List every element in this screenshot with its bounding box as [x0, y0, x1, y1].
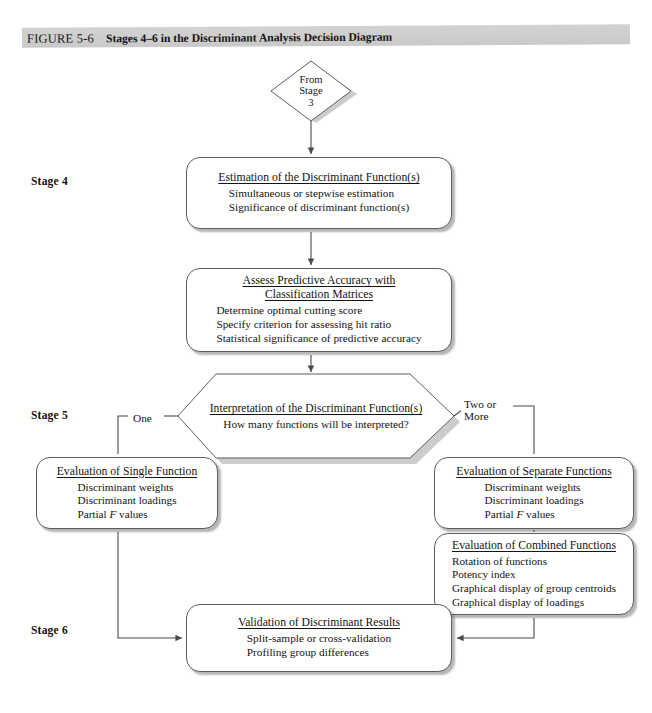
single-function-line-1: Discriminant weights — [77, 481, 176, 495]
stage-label-6: Stage 6 — [31, 624, 68, 636]
single-function-title: Evaluation of Single Function — [57, 465, 198, 478]
assess-line-3: Statistical significance of predictive a… — [216, 332, 421, 346]
assess-title-line-2: Classification Matrices — [265, 288, 373, 301]
interpretation-title: Interpretation of the Discriminant Funct… — [210, 402, 423, 415]
node-validation: Validation of Discriminant Results Split… — [186, 604, 452, 672]
from-stage-3-text: From Stage 3 — [271, 61, 351, 121]
single-f-suffix: values — [116, 508, 147, 520]
single-function-line-2: Discriminant loadings — [77, 494, 176, 508]
from-stage-3-line1: From — [300, 74, 323, 85]
node-evaluation-combined-functions: Evaluation of Combined Functions Rotatio… — [434, 533, 634, 615]
estimation-title: Estimation of the Discriminant Function(… — [218, 171, 419, 184]
node-assess-predictive-accuracy: Assess Predictive Accuracy with Classifi… — [186, 268, 452, 352]
branch-label-two-or-more: Two or More — [461, 398, 499, 422]
edge-combined-to-validation — [457, 618, 534, 638]
validation-line-1: Split-sample or cross-validation — [247, 632, 391, 646]
edge-one-to-single-function — [118, 416, 128, 454]
separate-functions-lines: Discriminant weights Discriminant loadin… — [484, 481, 583, 522]
separate-f-prefix: Partial — [484, 508, 516, 520]
separate-functions-title: Evaluation of Separate Functions — [456, 465, 611, 478]
interpretation-subtitle: How many functions will be interpreted? — [223, 418, 408, 430]
node-interpretation: Interpretation of the Discriminant Funct… — [178, 374, 454, 458]
node-estimation: Estimation of the Discriminant Function(… — [186, 157, 452, 229]
separate-f-suffix: values — [523, 508, 554, 520]
edge-two-or-more-to-separate — [513, 406, 534, 454]
figure-caption: FIGURE 5-6 Stages 4–6 in the Discriminan… — [27, 25, 627, 49]
combined-functions-line-4: Graphical display of loadings — [452, 596, 616, 610]
figure-number: FIGURE 5-6 — [27, 31, 94, 46]
separate-functions-line-2: Discriminant loadings — [484, 494, 583, 508]
single-function-line-3: Partial F values — [77, 508, 176, 522]
stage-label-5: Stage 5 — [31, 409, 68, 421]
estimation-line-2: Significance of discriminant function(s) — [229, 201, 409, 215]
node-evaluation-separate-functions: Evaluation of Separate Functions Discrim… — [434, 457, 634, 529]
single-f-prefix: Partial — [77, 508, 109, 520]
validation-lines: Split-sample or cross-validation Profili… — [247, 632, 391, 660]
assess-title-line-1: Assess Predictive Accuracy with — [243, 274, 396, 287]
from-stage-3-line3: 3 — [308, 97, 313, 108]
assess-line-2: Specify criterion for assessing hit rati… — [216, 318, 421, 332]
figure-title: Stages 4–6 in the Discriminant Analysis … — [106, 30, 392, 45]
assess-lines: Determine optimal cutting score Specify … — [216, 304, 421, 345]
validation-line-2: Profiling group differences — [247, 646, 391, 660]
edge-single-to-validation — [118, 532, 182, 638]
combined-functions-title: Evaluation of Combined Functions — [452, 539, 616, 552]
separate-functions-line-1: Discriminant weights — [484, 481, 583, 495]
branch-two-or-more-line2: More — [464, 410, 496, 422]
combined-functions-line-3: Graphical display of group centroids — [452, 582, 616, 596]
branch-label-one: One — [130, 412, 155, 424]
combined-functions-line-2: Potency index — [452, 568, 616, 582]
from-stage-3-line2: Stage — [299, 85, 323, 96]
node-evaluation-single-function: Evaluation of Single Function Discrimina… — [36, 457, 218, 529]
single-function-lines: Discriminant weights Discriminant loadin… — [77, 481, 176, 522]
estimation-lines: Simultaneous or stepwise estimation Sign… — [229, 187, 409, 215]
node-from-stage-3: From Stage 3 — [271, 61, 351, 121]
branch-two-or-more-line1: Two or — [464, 398, 496, 410]
interpretation-text: Interpretation of the Discriminant Funct… — [178, 374, 454, 458]
estimation-line-1: Simultaneous or stepwise estimation — [229, 187, 409, 201]
combined-functions-line-1: Rotation of functions — [452, 555, 616, 569]
validation-title: Validation of Discriminant Results — [238, 616, 400, 629]
separate-functions-line-3: Partial F values — [484, 508, 583, 522]
assess-line-1: Determine optimal cutting score — [216, 304, 421, 318]
combined-functions-lines: Rotation of functions Potency index Grap… — [452, 555, 616, 610]
stage-label-4: Stage 4 — [31, 175, 68, 187]
